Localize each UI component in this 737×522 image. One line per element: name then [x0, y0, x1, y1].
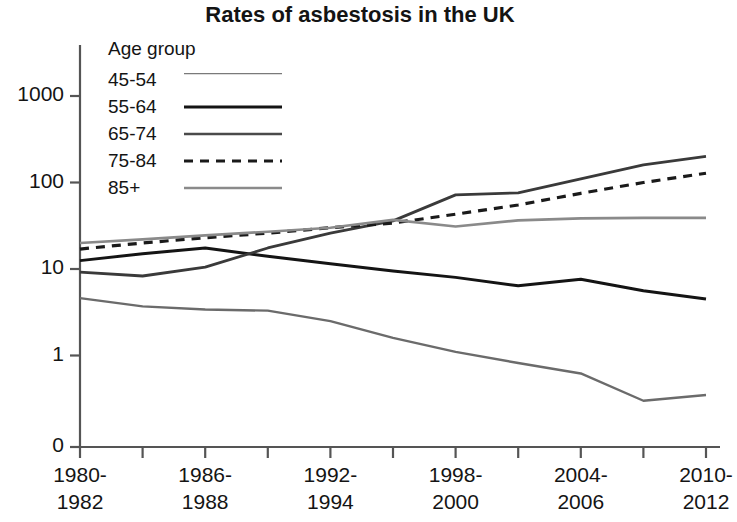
x-tick-line1: 1992-	[282, 461, 378, 488]
x-tick-line1: 1998-	[408, 461, 504, 488]
x-tick-line2: 1988	[157, 488, 253, 515]
x-tick-line1: 2010-	[658, 461, 737, 488]
x-tick-line2: 2012	[658, 488, 737, 515]
x-tick-label-1980-1982: 1980-1982	[32, 461, 128, 515]
x-tick-label-2010-2012: 2010-2012	[658, 461, 737, 515]
x-tick-line1: 1986-	[157, 461, 253, 488]
x-tick-line1: 1980-	[32, 461, 128, 488]
x-tick-line1: 2004-	[533, 461, 629, 488]
y-tick-label-1000: 1000	[0, 82, 64, 106]
x-tick-line2: 2000	[408, 488, 504, 515]
y-tick-label-0: 0	[0, 433, 64, 457]
y-tick-label-1: 1	[0, 342, 64, 366]
series-line-65-74	[80, 156, 706, 276]
series-line-45-54	[80, 298, 706, 401]
x-tick-label-1986-1988: 1986-1988	[157, 461, 253, 515]
series-line-55-64	[80, 248, 706, 299]
x-tick-line2: 1994	[282, 488, 378, 515]
x-tick-line2: 1982	[32, 488, 128, 515]
x-tick-line2: 2006	[533, 488, 629, 515]
x-tick-label-1992-1994: 1992-1994	[282, 461, 378, 515]
y-tick-label-10: 10	[0, 255, 64, 279]
y-tick-label-100: 100	[0, 169, 64, 193]
x-tick-label-1998-2000: 1998-2000	[408, 461, 504, 515]
x-tick-label-2004-2006: 2004-2006	[533, 461, 629, 515]
